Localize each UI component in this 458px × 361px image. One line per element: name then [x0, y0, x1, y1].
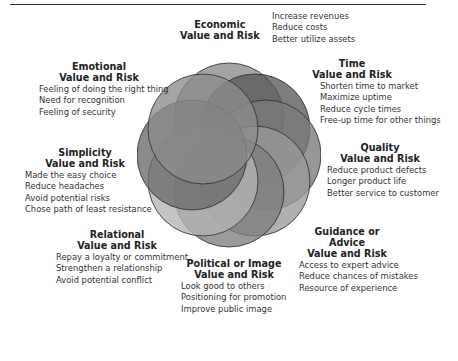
quality-item: Reduce product defects	[327, 165, 439, 176]
time-item: Reduce cycle times	[320, 104, 441, 115]
category-guidance: Guidance or Advice Value and Risk Access…	[299, 226, 418, 294]
guidance-item: Resource of experience	[299, 283, 418, 294]
relational-item: Repay a loyalty or commitment	[56, 252, 188, 263]
emotional-heading: Emotional Value and Risk	[39, 61, 159, 83]
category-relational: Relational Value and Risk Repay a loyalt…	[56, 229, 188, 286]
time-item: Maximize uptime	[320, 92, 441, 103]
category-quality: Quality Value and Risk Reduce product de…	[327, 142, 439, 199]
quality-item: Longer product life	[327, 176, 439, 187]
category-economic: Economic Value and Risk	[180, 19, 260, 41]
guidance-heading: Guidance or Advice Value and Risk	[299, 226, 395, 259]
simplicity-item: Avoid potential risks	[25, 193, 152, 204]
emotional-item: Feeling of doing the right thing	[39, 84, 169, 95]
guidance-item: Reduce chances of mistakes	[299, 271, 418, 282]
simplicity-item: Chose path of least resistance	[25, 204, 152, 215]
relational-heading: Relational Value and Risk	[56, 229, 178, 251]
simplicity-item: Made the easy choice	[25, 170, 152, 181]
category-emotional: Emotional Value and Risk Feeling of doin…	[39, 61, 169, 118]
political-item: Look good to others	[181, 281, 287, 292]
quality-heading: Quality Value and Risk	[327, 142, 433, 164]
simplicity-heading: Simplicity Value and Risk	[25, 147, 145, 169]
time-item: Free-up time for other things	[320, 115, 441, 126]
title-rule	[10, 4, 426, 5]
relational-item: Avoid potential conflict	[56, 275, 188, 286]
political-heading: Political or Image Value and Risk	[181, 258, 287, 280]
category-simplicity: Simplicity Value and Risk Made the easy …	[25, 147, 152, 216]
quality-item: Better service to customer	[327, 188, 439, 199]
economic-items: Increase revenues Reduce costs Better ut…	[272, 11, 355, 45]
emotional-item: Need for recognition	[39, 95, 169, 106]
guidance-item: Access to expert advice	[299, 260, 418, 271]
economic-heading: Economic Value and Risk	[180, 19, 260, 41]
time-heading: Time Value and Risk	[312, 58, 392, 80]
category-political: Political or Image Value and Risk Look g…	[181, 258, 287, 315]
category-time: Time Value and Risk Shorten time to mark…	[312, 58, 441, 127]
economic-item: Reduce costs	[272, 22, 355, 33]
time-item: Shorten time to market	[320, 81, 441, 92]
political-item: Improve public image	[181, 304, 287, 315]
economic-item: Increase revenues	[272, 11, 355, 22]
relational-item: Strengthen a relationship	[56, 263, 188, 274]
political-item: Positioning for promotion	[181, 292, 287, 303]
simplicity-item: Reduce headaches	[25, 181, 152, 192]
economic-item: Better utilize assets	[272, 34, 355, 45]
emotional-item: Feeling of security	[39, 107, 169, 118]
